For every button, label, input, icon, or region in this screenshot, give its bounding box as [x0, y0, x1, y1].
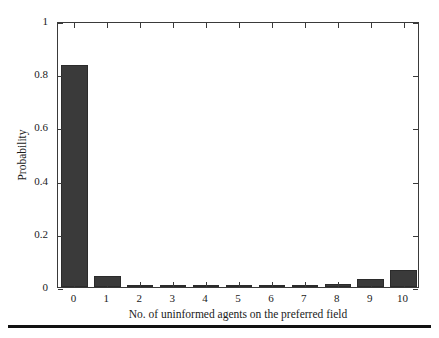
- x-tick-10: [404, 282, 405, 287]
- x-tick-3: [173, 282, 174, 287]
- figure-container: Probability 00.20.40.60.81 012345678910 …: [0, 0, 439, 338]
- x-tick-top-0: [74, 23, 75, 28]
- y-tick-right-1: [413, 23, 418, 24]
- plot-area: [57, 22, 419, 288]
- bar-0: [61, 65, 87, 287]
- y-tick-0.4: [58, 183, 63, 184]
- y-tick-0.8: [58, 76, 63, 77]
- y-tick-0.2: [58, 236, 63, 237]
- y-tick-label-0.2: 0.2: [0, 229, 48, 240]
- x-tick-top-9: [371, 23, 372, 28]
- y-tick-1: [58, 23, 63, 24]
- x-tick-top-10: [404, 23, 405, 28]
- y-tick-right-0.4: [413, 183, 418, 184]
- x-tick-top-6: [272, 23, 273, 28]
- x-tick-top-7: [305, 23, 306, 28]
- x-tick-label-2: 2: [137, 292, 143, 304]
- x-tick-top-8: [338, 23, 339, 28]
- x-tick-8: [338, 282, 339, 287]
- x-tick-2: [140, 282, 141, 287]
- x-tick-0: [74, 282, 75, 287]
- x-tick-top-4: [206, 23, 207, 28]
- x-tick-6: [272, 282, 273, 287]
- x-tick-label-1: 1: [104, 292, 110, 304]
- y-tick-label-1: 1: [0, 16, 48, 27]
- x-tick-label-7: 7: [301, 292, 307, 304]
- y-tick-label-0: 0: [0, 282, 48, 293]
- x-tick-label-6: 6: [268, 292, 274, 304]
- x-tick-label-8: 8: [334, 292, 340, 304]
- x-tick-label-9: 9: [367, 292, 373, 304]
- x-tick-top-2: [140, 23, 141, 28]
- x-tick-top-5: [239, 23, 240, 28]
- y-tick-label-0.4: 0.4: [0, 176, 48, 187]
- y-tick-right-0.2: [413, 236, 418, 237]
- x-tick-7: [305, 282, 306, 287]
- y-tick-0.6: [58, 129, 63, 130]
- y-tick-label-0.8: 0.8: [0, 69, 48, 80]
- page-divider-rule: [8, 325, 431, 328]
- x-tick-top-3: [173, 23, 174, 28]
- y-tick-right-0.8: [413, 76, 418, 77]
- y-tick-label-0.6: 0.6: [0, 122, 48, 133]
- x-tick-4: [206, 282, 207, 287]
- x-tick-9: [371, 282, 372, 287]
- x-tick-label-5: 5: [235, 292, 241, 304]
- y-tick-0: [58, 289, 63, 290]
- x-axis-title: No. of uninformed agents on the preferre…: [57, 308, 419, 320]
- x-tick-1: [107, 282, 108, 287]
- x-tick-label-0: 0: [71, 292, 77, 304]
- y-tick-right-0: [413, 289, 418, 290]
- x-tick-5: [239, 282, 240, 287]
- x-tick-label-4: 4: [202, 292, 208, 304]
- y-tick-right-0.6: [413, 129, 418, 130]
- bar-series: [58, 23, 418, 287]
- y-axis-title: Probability: [16, 22, 30, 288]
- x-tick-label-10: 10: [397, 292, 408, 304]
- x-tick-label-3: 3: [169, 292, 175, 304]
- x-tick-top-1: [107, 23, 108, 28]
